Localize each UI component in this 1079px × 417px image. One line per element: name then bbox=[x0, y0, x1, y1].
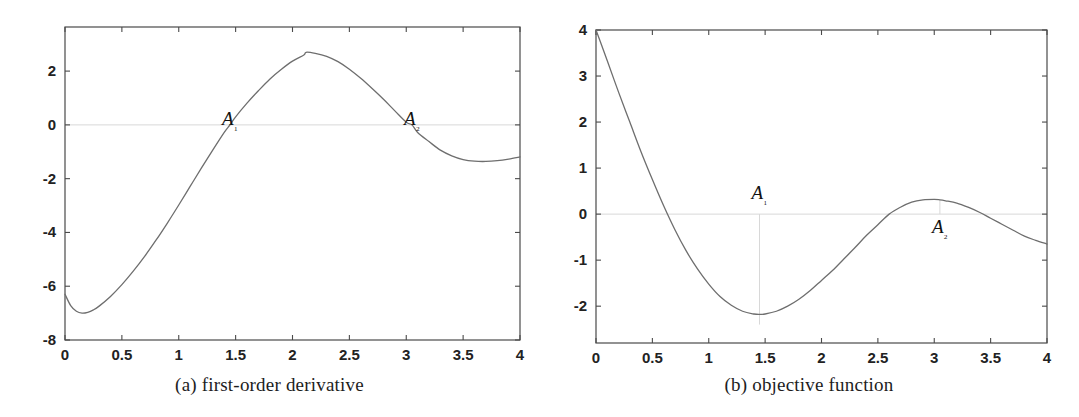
chart-first-order-derivative: 00.511.522.533.54-8-6-4-202A₁A₂ bbox=[0, 0, 539, 417]
annotation-letter: A bbox=[750, 182, 764, 203]
annotation-letter: A bbox=[220, 108, 234, 129]
y-tick-label-0: -8 bbox=[43, 331, 56, 348]
x-tick-label-3: 1.5 bbox=[755, 349, 776, 366]
y-tick-label-4: 2 bbox=[579, 113, 587, 130]
plot-frame bbox=[596, 30, 1047, 343]
series-line-1 bbox=[596, 30, 1047, 314]
y-tick-label-1: -6 bbox=[43, 277, 56, 294]
annotation-subscript: ₂ bbox=[416, 118, 420, 132]
x-tick-label-6: 3 bbox=[930, 349, 938, 366]
y-tick-label-5: 2 bbox=[48, 62, 56, 79]
x-tick-label-4: 2 bbox=[288, 346, 296, 363]
x-tick-label-0: 0 bbox=[61, 346, 69, 363]
caption-panel-b: (b) objective function bbox=[539, 374, 1079, 396]
x-tick-label-5: 2.5 bbox=[867, 349, 888, 366]
x-tick-label-2: 1 bbox=[175, 346, 183, 363]
x-tick-label-8: 4 bbox=[1043, 349, 1052, 366]
caption-panel-a: (a) first-order derivative bbox=[0, 374, 539, 396]
x-tick-label-4: 2 bbox=[817, 349, 825, 366]
y-tick-label-5: 3 bbox=[579, 67, 587, 84]
annotation-a2: A₂ bbox=[402, 108, 420, 132]
annotation-a1: A₁ bbox=[220, 108, 238, 132]
panel-objective-function: 00.511.522.533.54-2-101234A₁A₂ (b) objec… bbox=[539, 0, 1079, 417]
annotation-subscript: ₂ bbox=[944, 226, 948, 240]
x-tick-label-1: 0.5 bbox=[111, 346, 132, 363]
y-tick-label-1: -1 bbox=[574, 251, 587, 268]
annotation-a2: A₂ bbox=[930, 216, 948, 240]
figure-container: 00.511.522.533.54-8-6-4-202A₁A₂ (a) firs… bbox=[0, 0, 1079, 417]
x-tick-label-3: 1.5 bbox=[225, 346, 246, 363]
x-tick-label-1: 0.5 bbox=[642, 349, 663, 366]
y-tick-label-6: 4 bbox=[579, 21, 588, 38]
annotation-subscript: ₁ bbox=[763, 192, 767, 206]
series-line-1 bbox=[65, 52, 520, 313]
annotation-letter: A bbox=[402, 108, 416, 129]
panel-first-order-derivative: 00.511.522.533.54-8-6-4-202A₁A₂ (a) firs… bbox=[0, 0, 539, 417]
annotation-subscript: ₁ bbox=[234, 118, 238, 132]
y-tick-label-3: -2 bbox=[43, 170, 56, 187]
x-tick-label-0: 0 bbox=[592, 349, 600, 366]
annotation-label: A₂ bbox=[402, 108, 420, 132]
x-tick-label-6: 3 bbox=[402, 346, 410, 363]
x-tick-label-8: 4 bbox=[516, 346, 525, 363]
y-tick-label-2: 0 bbox=[579, 205, 587, 222]
chart-objective-function: 00.511.522.533.54-2-101234A₁A₂ bbox=[539, 0, 1079, 417]
y-tick-label-3: 1 bbox=[579, 159, 587, 176]
plot-frame bbox=[65, 27, 520, 340]
x-tick-label-7: 3.5 bbox=[453, 346, 474, 363]
annotation-a1: A₁ bbox=[750, 182, 768, 206]
x-tick-label-2: 1 bbox=[705, 349, 713, 366]
annotation-label: A₂ bbox=[930, 216, 948, 240]
x-tick-label-7: 3.5 bbox=[980, 349, 1001, 366]
annotation-label: A₁ bbox=[220, 108, 238, 132]
y-tick-label-2: -4 bbox=[43, 223, 57, 240]
x-tick-label-5: 2.5 bbox=[339, 346, 360, 363]
annotation-letter: A bbox=[930, 216, 944, 237]
annotation-label: A₁ bbox=[750, 182, 768, 206]
y-tick-label-4: 0 bbox=[48, 116, 56, 133]
y-tick-label-0: -2 bbox=[574, 297, 587, 314]
